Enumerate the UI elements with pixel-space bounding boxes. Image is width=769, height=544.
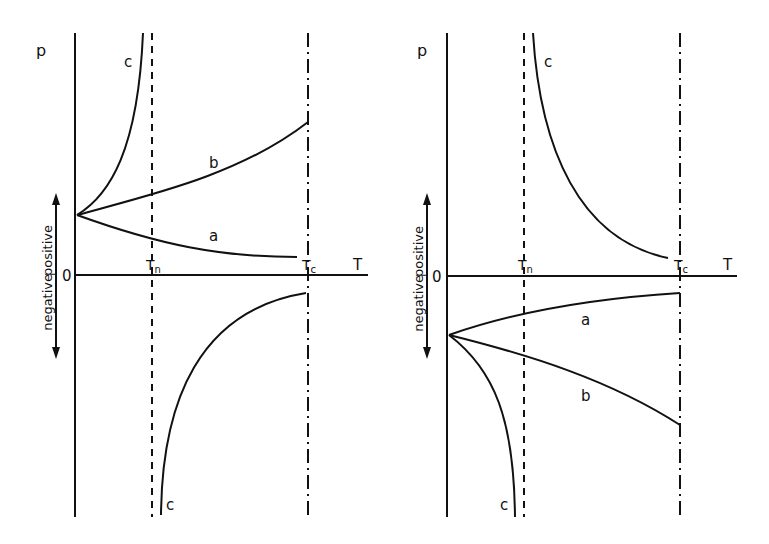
left-x-axis-label: T <box>352 256 363 274</box>
right-curve-c-upper-label: c <box>544 53 552 71</box>
left-negative-label: negative <box>40 274 55 331</box>
right-positive-label: positive <box>411 226 426 277</box>
left-up-arrow-icon <box>52 193 60 205</box>
left-positive-label: positive <box>40 225 55 276</box>
right-up-arrow-icon <box>423 193 431 205</box>
left-curve-b-label: b <box>209 154 219 172</box>
left-panel: p 0 T positive negative Tn Tc c b a c <box>36 33 368 517</box>
right-curve-c-lower <box>449 335 515 517</box>
right-down-arrow-icon <box>423 347 431 359</box>
right-curve-a <box>449 293 680 335</box>
left-tn-label: Tn <box>145 257 161 275</box>
left-tc-label: Tc <box>301 257 316 275</box>
right-origin-label: 0 <box>432 268 442 286</box>
left-origin-label: 0 <box>62 267 72 285</box>
right-tn-label: Tn <box>517 257 533 275</box>
phase-diagram-figure: p 0 T positive negative Tn Tc c b a c p … <box>0 0 769 544</box>
left-curve-a <box>77 215 297 257</box>
right-negative-label: negative <box>411 275 426 332</box>
left-down-arrow-icon <box>52 347 60 359</box>
right-curve-c-upper <box>533 33 668 258</box>
right-x-axis-label: T <box>722 256 733 274</box>
right-curve-b <box>449 335 680 425</box>
right-curve-c-lower-label: c <box>500 496 508 514</box>
left-y-axis-label: p <box>36 41 46 60</box>
right-panel: p 0 T positive negative Tn Tc c a b c <box>411 33 737 517</box>
left-curve-b <box>77 122 308 215</box>
left-curve-a-label: a <box>209 227 218 245</box>
right-tc-label: Tc <box>673 257 688 275</box>
left-curve-c-upper <box>77 33 143 215</box>
right-y-axis-label: p <box>417 41 427 60</box>
left-curve-c-lower-label: c <box>166 496 174 514</box>
right-curve-a-label: a <box>581 311 590 329</box>
right-curve-b-label: b <box>581 387 591 405</box>
left-curve-c-upper-label: c <box>124 53 132 71</box>
left-curve-c-lower <box>161 293 306 515</box>
